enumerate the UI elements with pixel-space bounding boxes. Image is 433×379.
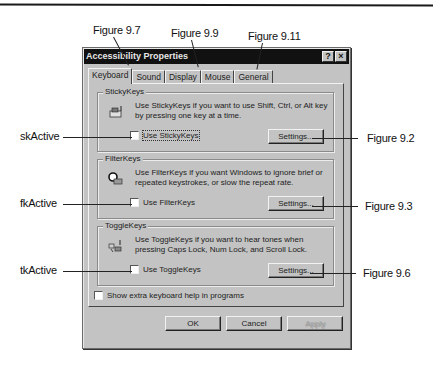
callout-line-fkactive <box>63 204 132 205</box>
filterkeys-checkbox-box[interactable] <box>130 198 139 207</box>
help-button[interactable]: ? <box>322 51 334 62</box>
tab-keyboard[interactable]: Keyboard <box>88 68 132 84</box>
callout-figure-9-9: Figure 9.9 <box>171 27 219 39</box>
window-title: Accessibility Properties <box>86 51 188 61</box>
togglekeys-group: ToggleKeys Use ToggleKeys if you want to… <box>97 226 334 286</box>
use-stickykeys-label: Use StickyKeys <box>143 131 199 140</box>
use-filterkeys-label: Use FilterKeys <box>143 198 195 207</box>
tab-sound[interactable]: Sound <box>132 70 165 84</box>
tab-display[interactable]: Display <box>165 70 201 84</box>
togglekeys-group-title: ToggleKeys <box>103 221 148 230</box>
stickykeys-description: Use StickyKeys if you want to use Shift,… <box>135 101 331 121</box>
filterkeys-settings-button[interactable]: Settings... <box>268 196 324 211</box>
filterkeys-group: FilterKeys Use FilterKeys if you want Wi… <box>97 159 334 219</box>
callout-line-figure-9-3 <box>312 206 358 207</box>
ok-button[interactable]: OK <box>165 316 221 331</box>
cancel-button[interactable]: Cancel <box>226 316 282 331</box>
callout-fkactive: fkActive <box>20 197 57 209</box>
stickykeys-group: StickyKeys Use StickyKeys if you want to… <box>97 92 334 152</box>
top-rule <box>0 3 433 6</box>
use-stickykeys-checkbox[interactable]: Use StickyKeys <box>130 131 199 140</box>
stickykeys-icon <box>108 105 124 119</box>
tab-general[interactable]: General <box>234 70 272 84</box>
callout-line-figure-9-2 <box>312 138 358 139</box>
togglekeys-settings-button[interactable]: Settings... <box>268 263 324 278</box>
callout-line-figure-9-6 <box>310 273 356 274</box>
callout-skactive: skActive <box>20 130 59 142</box>
apply-button[interactable]: Apply <box>287 316 343 331</box>
callout-figure-9-11: Figure 9.11 <box>248 30 301 42</box>
show-extra-keyboard-help-label: Show extra keyboard help in programs <box>107 291 244 300</box>
filterkeys-icon <box>108 172 124 186</box>
callout-figure-9-7: Figure 9.7 <box>93 24 141 36</box>
togglekeys-description: Use ToggleKeys if you want to hear tones… <box>135 235 331 255</box>
use-togglekeys-label: Use ToggleKeys <box>143 265 201 274</box>
stickykeys-settings-button[interactable]: Settings... <box>268 129 324 144</box>
filterkeys-description: Use FilterKeys if you want Windows to ig… <box>135 168 331 188</box>
use-togglekeys-checkbox[interactable]: Use ToggleKeys <box>130 265 201 274</box>
help-icon: ? <box>325 51 331 61</box>
callout-tkactive: tkActive <box>20 264 57 276</box>
callout-line-skactive <box>63 137 132 138</box>
extra-help-checkbox-box[interactable] <box>94 291 103 300</box>
callout-figure-9-2: Figure 9.2 <box>367 132 415 144</box>
stickykeys-group-title: StickyKeys <box>103 87 146 96</box>
tab-mouse[interactable]: Mouse <box>201 70 235 84</box>
show-extra-keyboard-help-checkbox[interactable]: Show extra keyboard help in programs <box>94 291 244 300</box>
accessibility-properties-dialog: Accessibility Properties ? × Keyboard So… <box>82 47 351 349</box>
close-icon: × <box>338 51 343 61</box>
filterkeys-group-title: FilterKeys <box>103 154 143 163</box>
close-button[interactable]: × <box>335 51 347 62</box>
callout-figure-9-3: Figure 9.3 <box>365 200 413 212</box>
togglekeys-icon <box>108 239 124 253</box>
togglekeys-checkbox-box[interactable] <box>130 265 139 274</box>
tab-strip: Keyboard Sound Display Mouse General <box>88 69 273 83</box>
stickykeys-checkbox-box[interactable] <box>130 131 139 140</box>
use-filterkeys-checkbox[interactable]: Use FilterKeys <box>130 198 195 207</box>
callout-line-tkactive <box>63 271 132 272</box>
callout-figure-9-6: Figure 9.6 <box>363 267 411 279</box>
keyboard-tab-panel: StickyKeys Use StickyKeys if you want to… <box>88 83 344 307</box>
